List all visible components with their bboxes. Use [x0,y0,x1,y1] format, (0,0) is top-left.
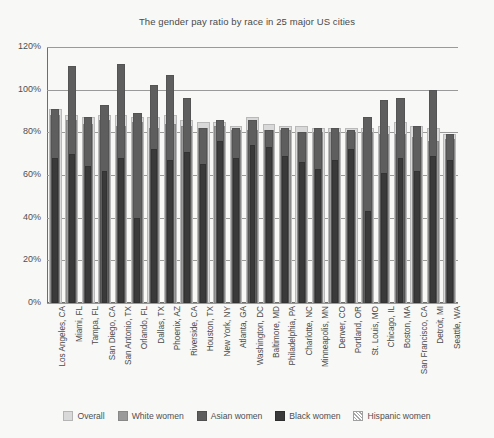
bar-group [263,47,276,303]
bar-group [378,47,391,303]
bar-black-women [398,158,404,303]
bar-black-women [102,171,108,303]
bar-group [246,47,259,303]
bar-black-women [69,154,75,303]
bar-group [361,47,374,303]
bar-group [131,47,144,303]
x-tick-label: Miami, FL [75,306,84,402]
bar-black-women [282,156,288,303]
legend-swatch-icon [118,411,128,421]
bar-black-women [250,145,256,303]
bar-group [328,47,341,303]
legend-swatch-icon [275,411,285,421]
legend-item[interactable]: Asian women [197,411,263,421]
x-tick-label: Detroit, MI [436,306,445,402]
y-tick-label: 40% [1,212,41,222]
bar-black-women [266,147,272,303]
legend-swatch-icon [63,411,73,421]
chart-canvas: The gender pay ratio by race in 25 major… [0,0,494,438]
x-tick-label: Charlotte, NC [305,306,314,402]
bar-black-women [118,158,124,303]
bar-group [427,47,440,303]
x-tick-label: Phoenix, AZ [173,306,182,402]
y-tick-label: 20% [1,254,41,264]
bar-black-women [332,160,338,303]
x-tick-label: Atlanta, GA [239,306,248,402]
chart-title: The gender pay ratio by race in 25 major… [0,16,494,27]
bar-group [345,47,358,303]
bar-black-women [447,160,453,303]
bar-group [49,47,62,303]
x-tick-label: San Antonio, TX [124,306,133,402]
legend-label: Black women [289,411,340,421]
bar-group [147,47,160,303]
plot-area: 0%20%40%60%80%100%120% [47,47,458,303]
legend-swatch-icon [197,411,207,421]
bar-group [213,47,226,303]
bar-black-women [134,218,140,303]
bar-black-women [315,169,321,303]
x-tick-label: Minneapolis, MN [321,306,330,402]
x-tick-label: Portland, OR [354,306,363,402]
x-tick-label: St. Louis, MO [371,306,380,402]
bar-group [410,47,423,303]
bar-black-women [348,149,354,303]
x-tick-label: San Francisco, CA [420,306,429,402]
y-tick-label: 0% [1,297,41,307]
bar-group [180,47,193,303]
x-tick-label: Boston, MA [403,306,412,402]
bar-black-women [85,166,91,303]
legend-item[interactable]: White women [118,411,184,421]
chart-legend: OverallWhite womenAsian womenBlack women… [0,411,494,421]
bar-black-women [381,173,387,303]
bar-group [82,47,95,303]
x-tick-label: Tampa, FL [91,306,100,402]
legend-item[interactable]: Overall [63,411,104,421]
bar-black-women [184,152,190,303]
x-tick-label: Baltimore, MD [272,306,281,402]
bar-group [394,47,407,303]
x-tick-label: Philadelphia, PA [288,306,297,402]
x-tick-label: Los Angeles, CA [58,306,67,402]
x-tick-label: New York, NY [223,306,232,402]
x-tick-label: Dallas, TX [157,306,166,402]
bar-black-women [365,211,371,303]
y-tick-label: 100% [1,84,41,94]
bar-group [98,47,111,303]
legend-label: Asian women [211,411,263,421]
bar-group [230,47,243,303]
bar-black-women [414,171,420,303]
bar-black-women [52,158,58,303]
bar-group [443,47,456,303]
bar-black-women [430,156,436,303]
x-tick-label: Washington, DC [256,306,265,402]
legend-item[interactable]: Black women [275,411,340,421]
legend-item[interactable]: Hispanic women [353,411,430,421]
x-tick-label: Houston, TX [206,306,215,402]
x-tick-label: Chicago, IL [387,306,396,402]
bar-group [197,47,210,303]
x-tick-labels: Los Angeles, CAMiami, FLTampa, FLSan Die… [47,306,458,404]
bar-black-women [233,158,239,303]
bar-black-women [167,160,173,303]
bar-group [279,47,292,303]
bar-group [295,47,308,303]
x-tick-label: Riverside, CA [190,306,199,402]
y-tick-label: 60% [1,169,41,179]
bar-black-women [151,149,157,303]
x-tick-label: Seattle, WA [453,306,462,402]
legend-label: Hispanic women [367,411,430,421]
y-tick-label: 80% [1,126,41,136]
bar-black-women [299,162,305,303]
gridline-0 [47,303,458,304]
y-tick-label: 120% [1,41,41,51]
legend-label: White women [132,411,184,421]
legend-label: Overall [77,411,104,421]
bar-black-women [217,141,223,303]
bar-black-women [200,164,206,303]
x-tick-label: San Diego, CA [108,306,117,402]
bar-group [115,47,128,303]
x-tick-label: Denver, CO [338,306,347,402]
legend-swatch-icon [353,411,363,421]
x-tick-label: Orlando, FL [140,306,149,402]
